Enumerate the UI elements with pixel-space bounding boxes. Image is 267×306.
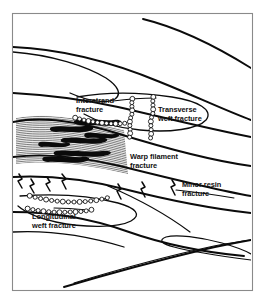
fracture-bead — [86, 119, 91, 124]
fracture-bead — [149, 124, 153, 128]
interstrand-fracture-label-line-1: Interstrand — [76, 96, 115, 105]
fracture-bead — [149, 136, 153, 140]
transverse-weft-fracture-label-line-2: weft fracture — [157, 114, 202, 123]
warp-filament-fracture-mark — [50, 126, 93, 132]
fracture-bead — [33, 195, 37, 199]
minor-resin-fracture-label-line-1: Minor resin — [182, 180, 222, 189]
transverse-weft-fracture-label-line-1: Transverse — [158, 105, 197, 114]
fracture-bead — [109, 122, 113, 126]
fracture-bead — [25, 206, 30, 211]
fracture-bead — [130, 101, 134, 105]
warp-filament-fracture-label-line-1: Warp filament — [130, 152, 179, 161]
fracture-bead — [39, 197, 43, 201]
fracture-bead — [84, 209, 88, 213]
fracture-bead — [89, 207, 94, 212]
transverse-weft-fracture-label: Transverseweft fracture — [157, 105, 202, 123]
fracture-bead — [83, 200, 87, 204]
fracture-bead — [79, 210, 83, 214]
longitudinal-weft-fracture-label: Longitudinalweft fracture — [31, 212, 76, 230]
fracture-bead — [44, 197, 49, 202]
fracture-bead — [105, 196, 109, 200]
fracture-bead — [73, 115, 78, 120]
fracture-bead — [78, 117, 82, 121]
fracture-bead — [151, 95, 156, 100]
fracture-bead — [60, 199, 65, 204]
fracture-bead — [149, 131, 154, 136]
interstrand-fracture-label-line-2: fracture — [76, 105, 103, 114]
fracture-bead — [55, 199, 59, 203]
fracture-bead — [128, 124, 132, 128]
fracture-bead — [118, 122, 122, 126]
fracture-bead — [91, 120, 95, 124]
fracture-bead — [100, 197, 104, 201]
fracture-bead — [148, 119, 153, 124]
fracture-bead — [123, 121, 127, 125]
fracture-bead — [151, 107, 156, 112]
longitudinal-weft-fracture-label-line-1: Longitudinal — [32, 212, 76, 221]
fracture-bead — [151, 111, 155, 115]
fracture-bead — [94, 198, 99, 203]
fracture-bead — [50, 198, 54, 202]
fracture-bead — [128, 135, 132, 139]
fracture-bead — [27, 193, 32, 198]
fracture-bead — [89, 199, 93, 203]
fracture-bead — [77, 199, 82, 204]
longitudinal-weft-fracture-label-line-2: weft fracture — [31, 221, 76, 230]
fracture-bead — [113, 121, 118, 126]
fracture-bead — [82, 118, 86, 122]
fracture-bead — [151, 99, 155, 103]
fracture-bead — [66, 200, 70, 204]
figure-root: InterstrandfractureTransverseweft fractu… — [0, 0, 267, 306]
composite-fracture-diagram: InterstrandfractureTransverseweft fractu… — [0, 0, 267, 306]
fracture-bead — [95, 120, 99, 124]
minor-resin-fracture-label-line-2: fracture — [182, 189, 209, 198]
fracture-bead — [100, 120, 105, 125]
fracture-bead — [72, 200, 76, 204]
fracture-bead — [105, 121, 109, 125]
warp-filament-fracture-label-line-2: fracture — [130, 161, 157, 170]
